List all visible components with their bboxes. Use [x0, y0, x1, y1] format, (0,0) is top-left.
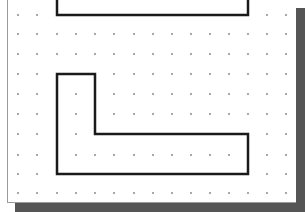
grid-dot [37, 14, 38, 16]
grid-dot [57, 192, 58, 194]
grid-dot [37, 173, 38, 175]
grid-dot [76, 133, 77, 135]
grid-dot [134, 73, 135, 75]
grid-dot [210, 113, 211, 115]
grid-dot [153, 73, 154, 75]
grid-dot [18, 113, 19, 115]
grid-dot [286, 173, 287, 175]
grid-dot [76, 33, 77, 35]
grid-dot [248, 73, 249, 75]
grid-dot [191, 113, 192, 115]
grid-dot [248, 53, 249, 55]
grid-dot [267, 192, 268, 194]
grid-dot [210, 192, 211, 194]
grid-dot [191, 73, 192, 75]
l-shape[interactable] [57, 74, 248, 174]
grid-dot [229, 93, 230, 95]
grid-dot [76, 113, 77, 115]
grid-dot [248, 192, 249, 194]
grid-dot [286, 33, 287, 35]
grid-dot [134, 93, 135, 95]
grid-dot [267, 93, 268, 95]
grid-dot [134, 192, 135, 194]
grid-dot [95, 33, 96, 35]
grid-dot [267, 14, 268, 16]
grid-dot [286, 154, 287, 156]
grid-dot [191, 192, 192, 194]
grid-dot [134, 53, 135, 55]
grid-dot [286, 73, 287, 75]
grid-dot [286, 133, 287, 135]
grid-dot [267, 53, 268, 55]
grid-dot [267, 73, 268, 75]
grid-dot [229, 33, 230, 35]
grid-dot [76, 53, 77, 55]
grid-dot [248, 33, 249, 35]
grid-dot [191, 93, 192, 95]
grid-dot [76, 192, 77, 194]
grid-dot [37, 113, 38, 115]
grid-dot [172, 33, 173, 35]
grid-dot [191, 154, 192, 156]
grid-dot [134, 113, 135, 115]
grid-dot [153, 53, 154, 55]
grid-dot [18, 33, 19, 35]
grid-dot [37, 93, 38, 95]
grid-dot [114, 192, 115, 194]
grid-dot [95, 53, 96, 55]
grid-dot [229, 113, 230, 115]
grid-dot [172, 113, 173, 115]
top-u-shape[interactable] [57, 0, 248, 15]
grid-dot [286, 93, 287, 95]
grid-dot [210, 53, 211, 55]
grid-dot [37, 192, 38, 194]
grid-dot [57, 33, 58, 35]
drawing-layer [0, 0, 305, 212]
grid-dot [229, 154, 230, 156]
grid-dot [18, 53, 19, 55]
grid-dot [267, 33, 268, 35]
grid-dot [267, 154, 268, 156]
grid-dot [210, 33, 211, 35]
grid-dot [267, 113, 268, 115]
grid-dot [95, 154, 96, 156]
grid-dot [172, 53, 173, 55]
grid-dot [18, 133, 19, 135]
grid-dot [248, 113, 249, 115]
grid-dot [95, 192, 96, 194]
grid-dot [114, 73, 115, 75]
grid-dot [18, 14, 19, 16]
grid-dot [114, 113, 115, 115]
grid-dot [18, 173, 19, 175]
grid-dot [134, 33, 135, 35]
grid-dot [172, 192, 173, 194]
grid-dot [153, 93, 154, 95]
grid-dot [18, 93, 19, 95]
grid-dot [210, 73, 211, 75]
grid-dot [114, 93, 115, 95]
grid-dot [153, 192, 154, 194]
grid-dot [114, 53, 115, 55]
grid-dot [267, 173, 268, 175]
grid-dot [229, 53, 230, 55]
grid-dot [37, 53, 38, 55]
grid-dot [172, 73, 173, 75]
grid-dot [286, 53, 287, 55]
grid-dot [153, 154, 154, 156]
grid-dot [229, 73, 230, 75]
grid-dot [76, 154, 77, 156]
grid-dot [18, 73, 19, 75]
grid-dot [37, 154, 38, 156]
grid-dot [229, 192, 230, 194]
grid-dot [210, 154, 211, 156]
grid-dot [191, 53, 192, 55]
grid-dot [37, 133, 38, 135]
grid-dot [18, 192, 19, 194]
grid-dot [286, 192, 287, 194]
grid-dot [286, 113, 287, 115]
grid-dot [172, 93, 173, 95]
grid-dot [37, 33, 38, 35]
grid-dot [114, 154, 115, 156]
grid-dot [153, 33, 154, 35]
grid-dot [191, 33, 192, 35]
